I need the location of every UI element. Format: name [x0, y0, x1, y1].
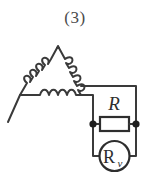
- delta-winding: [8, 46, 88, 122]
- resistor-label: R: [107, 93, 120, 114]
- right-winding-coil: [59, 48, 88, 95]
- meter-label-main: R: [103, 147, 115, 167]
- circuit-figure: (3) R: [0, 0, 150, 191]
- resistor-body: [100, 117, 129, 131]
- left-winding-coil: [20, 48, 57, 95]
- bottom-winding-coil: [8, 90, 88, 122]
- meter-label-subscript: v: [118, 157, 123, 169]
- resistor-branch: R: [93, 93, 136, 131]
- node-dot-right: [132, 120, 139, 127]
- node-dot-left: [89, 120, 96, 127]
- left-connection-wire: [88, 95, 93, 124]
- circuit-diagram-svg: R R v: [0, 0, 150, 191]
